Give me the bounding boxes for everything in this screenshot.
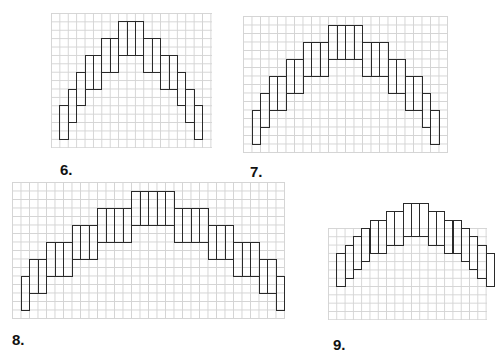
cuboid-column [194, 105, 203, 140]
figure-number-label: 9. [333, 336, 346, 353]
figure-number-label: 8. [12, 331, 25, 348]
cuboid-column [486, 253, 495, 287]
cuboid-column [430, 110, 440, 145]
cuboid-column [276, 276, 286, 311]
figure-number-label: 7. [250, 163, 263, 180]
figure-number-label: 6. [60, 161, 73, 178]
